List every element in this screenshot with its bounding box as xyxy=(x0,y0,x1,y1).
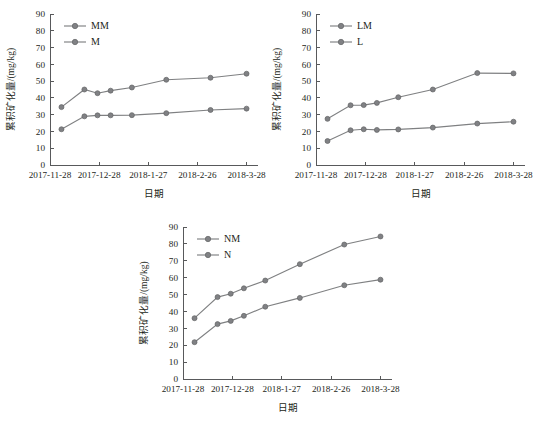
x-tick-label: 2017-12-28 xyxy=(211,384,254,394)
data-point xyxy=(129,85,134,90)
data-point xyxy=(164,77,169,82)
y-tick-label: 50 xyxy=(169,290,179,300)
data-point xyxy=(192,340,197,345)
data-point xyxy=(396,95,401,100)
y-tick-label: 80 xyxy=(302,26,312,36)
y-tick-label: 10 xyxy=(36,143,46,153)
y-axis: 0102030405060708090 xyxy=(36,9,54,170)
data-point xyxy=(475,121,480,126)
y-axis: 0102030405060708090 xyxy=(302,9,320,170)
legend-item-N: N xyxy=(197,249,231,260)
svg-text:累积矿化量/(mg/kg): 累积矿化量/(mg/kg) xyxy=(271,48,283,132)
x-tick-label: 2018-2-26 xyxy=(445,170,484,180)
y-tick-label: 40 xyxy=(302,93,312,103)
x-axis: 2017-11-282017-12-282018-1-272018-2-2620… xyxy=(162,376,400,395)
data-point xyxy=(82,114,87,119)
y-tick-label: 0 xyxy=(173,374,178,384)
chart-panel-nm-n: 0102030405060708090累积矿化量/(mg/kg)2017-11-… xyxy=(133,213,400,427)
series-NM xyxy=(192,234,383,321)
legend-marker xyxy=(205,252,210,257)
y-tick-label: 20 xyxy=(36,127,46,137)
y-tick-label: 30 xyxy=(169,324,179,334)
data-point xyxy=(241,313,246,318)
y-tick-label: 50 xyxy=(36,76,46,86)
chart-panel-mm-m: 0102030405060708090累积矿化量/(mg/kg)2017-11-… xyxy=(0,0,266,213)
legend-label: N xyxy=(224,249,231,260)
data-point xyxy=(475,71,480,76)
data-point xyxy=(95,113,100,118)
y-tick-label: 40 xyxy=(36,93,46,103)
data-point xyxy=(59,105,64,110)
y-axis: 0102030405060708090 xyxy=(169,222,187,384)
x-tick-label: 2018-3-28 xyxy=(227,170,266,180)
y-axis-title: 累积矿化量/(mg/kg) xyxy=(271,48,283,132)
data-point xyxy=(244,71,249,76)
x-tick-label: 2018-2-26 xyxy=(178,170,217,180)
y-tick-label: 20 xyxy=(302,127,312,137)
legend-label: MM xyxy=(91,20,109,31)
x-tick-label: 2018-3-28 xyxy=(494,170,533,180)
data-point xyxy=(361,127,366,132)
data-point xyxy=(215,322,220,327)
y-tick-label: 90 xyxy=(302,9,312,19)
data-point xyxy=(108,88,113,93)
chart-panel-lm-l: 0102030405060708090累积矿化量/(mg/kg)2017-11-… xyxy=(266,0,533,213)
data-point xyxy=(244,106,249,111)
data-point xyxy=(129,113,134,118)
series-LM xyxy=(325,71,516,122)
data-point xyxy=(263,278,268,283)
data-point xyxy=(228,291,233,296)
y-tick-label: 70 xyxy=(169,256,179,266)
chart-a: 0102030405060708090累积矿化量/(mg/kg)2017-11-… xyxy=(0,0,266,213)
legend-label: M xyxy=(91,36,100,47)
data-point xyxy=(108,113,113,118)
y-tick-label: 0 xyxy=(306,160,311,170)
data-point xyxy=(228,318,233,323)
y-tick-label: 60 xyxy=(36,60,46,70)
y-tick-label: 10 xyxy=(169,357,179,367)
legend-item-M: M xyxy=(64,36,100,47)
data-point xyxy=(430,87,435,92)
data-point xyxy=(342,242,347,247)
data-point xyxy=(361,103,366,108)
x-axis-title: 日期 xyxy=(144,188,164,199)
y-tick-label: 70 xyxy=(302,43,312,53)
x-tick-label: 2018-1-27 xyxy=(263,384,302,394)
data-point xyxy=(325,116,330,121)
y-tick-label: 60 xyxy=(302,60,312,70)
data-point xyxy=(215,295,220,300)
x-tick-label: 2017-11-28 xyxy=(162,384,205,394)
data-point xyxy=(297,262,302,267)
y-tick-label: 80 xyxy=(169,239,179,249)
data-point xyxy=(82,87,87,92)
legend-label: NM xyxy=(224,233,240,244)
figure-three-line-charts: 0102030405060708090累积矿化量/(mg/kg)2017-11-… xyxy=(0,0,533,427)
svg-text:累积矿化量/(mg/kg): 累积矿化量/(mg/kg) xyxy=(5,48,17,132)
y-tick-label: 40 xyxy=(169,307,179,317)
x-axis: 2017-11-282017-12-282018-1-272018-2-2620… xyxy=(29,162,266,181)
y-axis-title: 累积矿化量/(mg/kg) xyxy=(5,48,17,132)
svg-text:累积矿化量/(mg/kg): 累积矿化量/(mg/kg) xyxy=(138,261,150,345)
y-tick-label: 90 xyxy=(169,222,179,232)
data-point xyxy=(430,125,435,130)
data-point xyxy=(208,107,213,112)
legend-marker xyxy=(338,39,343,44)
legend-label: LM xyxy=(357,20,372,31)
legend-label: L xyxy=(357,36,363,47)
series-MM xyxy=(59,71,249,109)
y-axis-title: 累积矿化量/(mg/kg) xyxy=(138,261,150,345)
x-tick-label: 2018-1-27 xyxy=(396,170,435,180)
y-tick-label: 0 xyxy=(40,160,45,170)
legend-marker xyxy=(72,23,77,28)
legend-item-LM: LM xyxy=(330,20,372,31)
legend-item-MM: MM xyxy=(64,20,109,31)
x-tick-label: 2017-11-28 xyxy=(295,170,338,180)
data-point xyxy=(374,100,379,105)
data-point xyxy=(396,127,401,132)
data-point xyxy=(374,127,379,132)
y-tick-label: 90 xyxy=(36,9,46,19)
series-M xyxy=(59,106,249,132)
legend-marker xyxy=(72,39,77,44)
data-point xyxy=(59,127,64,132)
data-point xyxy=(95,91,100,96)
